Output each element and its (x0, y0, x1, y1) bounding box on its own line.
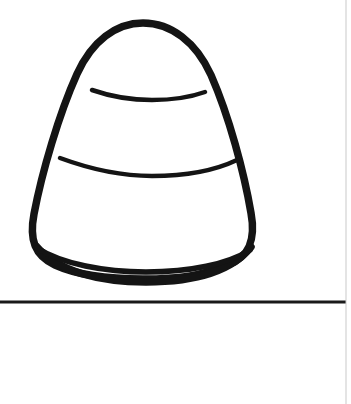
drawing-canvas: Black outline drawing of a candy corn wi… (0, 0, 351, 404)
candy-corn-artwork (0, 0, 351, 404)
